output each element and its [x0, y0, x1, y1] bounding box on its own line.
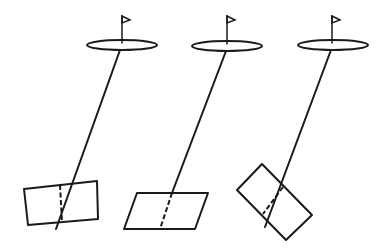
target-line [56, 50, 120, 229]
flag-icon [122, 16, 130, 23]
target-line [172, 51, 226, 193]
stance-divider [263, 187, 283, 214]
stance-divider [160, 193, 172, 229]
panel-left [24, 16, 157, 229]
hole-ellipse [298, 40, 368, 50]
golf-alignment-diagram [0, 0, 389, 251]
flag-icon [332, 16, 340, 23]
diagram-svg [0, 0, 389, 251]
flag-icon [227, 16, 235, 23]
